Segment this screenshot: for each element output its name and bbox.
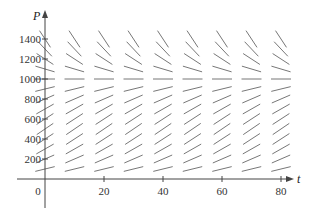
y-tick-label: 800 xyxy=(25,93,42,105)
x-tick-label: 20 xyxy=(99,185,111,197)
y-axis-label: P xyxy=(32,9,41,23)
slope-field-chart: 020406080 200400600800100012001400 t P xyxy=(0,0,310,214)
y-tick-label: 1000 xyxy=(19,73,42,85)
y-tick-label: 600 xyxy=(25,113,42,125)
x-tick-label: 40 xyxy=(158,185,170,197)
slope-segments xyxy=(35,31,291,172)
y-tick-label: 1200 xyxy=(19,53,42,65)
x-axis xyxy=(17,176,294,182)
y-tick-label: 1400 xyxy=(19,33,42,45)
y-axis-arrow-icon xyxy=(42,10,48,18)
x-tick-label: 0 xyxy=(35,185,41,197)
y-axis xyxy=(42,10,48,208)
y-tick-label: 200 xyxy=(25,153,42,165)
x-axis-label: t xyxy=(297,172,301,186)
x-axis-arrow-icon xyxy=(286,176,294,182)
y-tick-label: 400 xyxy=(25,133,42,145)
y-ticks: 200400600800100012001400 xyxy=(19,33,48,165)
x-tick-label: 80 xyxy=(276,185,288,197)
x-tick-label: 60 xyxy=(217,185,229,197)
